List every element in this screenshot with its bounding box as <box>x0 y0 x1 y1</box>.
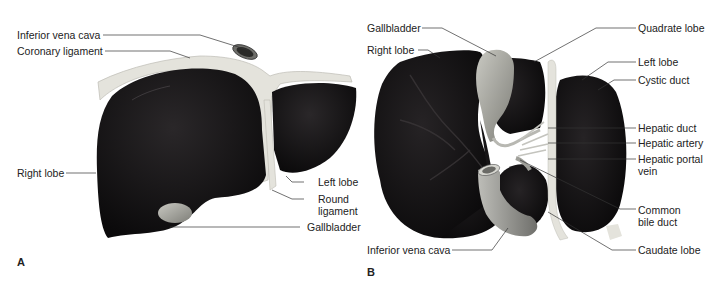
label-b-cystic-duct: Cystic duct <box>638 74 689 86</box>
panel-b-art <box>374 28 636 250</box>
label-a-coronary-ligament: Coronary ligament <box>17 45 103 57</box>
label-b-hepatic-duct: Hepatic duct <box>638 122 696 134</box>
label-a-left-lobe: Left lobe <box>318 176 358 188</box>
label-b-caudate-lobe: Caudate lobe <box>638 244 700 256</box>
panel-letter-b: B <box>367 266 375 278</box>
left-lobe-shape <box>272 83 356 173</box>
label-a-gallbladder: Gallbladder <box>307 221 361 233</box>
label-b-hepatic-artery: Hepatic artery <box>638 137 703 149</box>
liver-anatomy-figure: Inferior vena cava Coronary ligament Rig… <box>0 0 725 284</box>
label-b-inferior-vena-cava: Inferior vena cava <box>367 244 450 256</box>
label-b-common-bile-duct-line2: bile duct <box>638 216 677 228</box>
label-a-inferior-vena-cava: Inferior vena cava <box>17 29 100 41</box>
label-b-quadrate-lobe: Quadrate lobe <box>638 22 705 34</box>
right-lobe-b-shape <box>374 50 494 238</box>
gallbladder-shape-a <box>158 203 192 223</box>
label-b-hepatic-portal-vein-line1: Hepatic portal <box>638 153 703 165</box>
label-b-hepatic-portal-vein-line2: vein <box>638 165 657 177</box>
label-b-common-bile-duct-line1: Common <box>638 204 681 216</box>
panel-letter-a: A <box>17 256 25 268</box>
label-a-round-ligament-line2: ligament <box>318 205 358 217</box>
label-a-round-ligament-line1: Round <box>318 193 349 205</box>
label-b-gallbladder: Gallbladder <box>367 22 421 34</box>
left-lobe-b-shape <box>555 76 626 233</box>
label-b-right-lobe: Right lobe <box>367 44 414 56</box>
label-b-left-lobe: Left lobe <box>638 56 678 68</box>
liver-illustration <box>0 0 725 284</box>
label-a-right-lobe: Right lobe <box>17 167 64 179</box>
panel-a-art <box>66 35 356 238</box>
